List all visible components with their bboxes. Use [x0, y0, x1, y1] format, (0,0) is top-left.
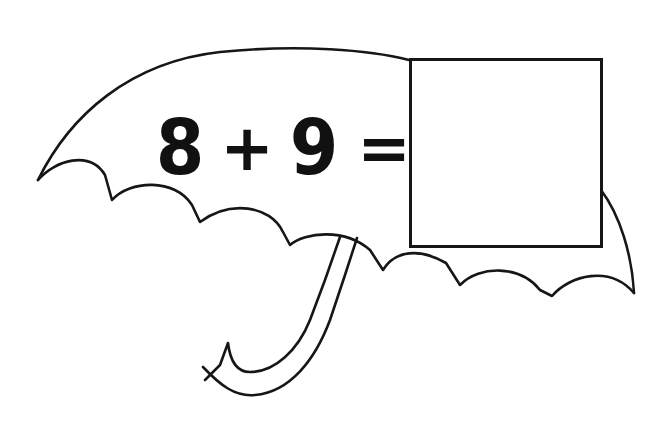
umbrella-handle: [205, 237, 340, 380]
operand-b: 9: [288, 110, 340, 186]
operand-a: 8: [154, 110, 206, 186]
umbrella-handle-outer: [203, 238, 357, 395]
worksheet: 8 + 9 =: [0, 0, 651, 426]
answer-box[interactable]: [409, 58, 603, 248]
plus-sign: +: [208, 116, 286, 180]
equation: 8 + 9 =: [152, 108, 426, 188]
